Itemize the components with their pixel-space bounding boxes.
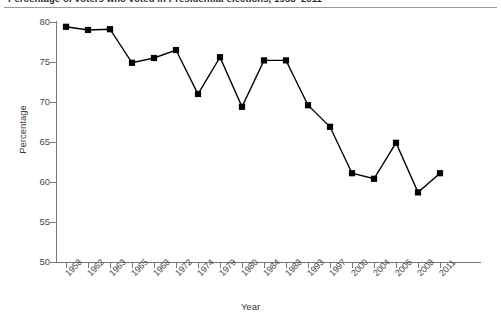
data-point-marker: 1988: 75.2	[283, 57, 289, 63]
data-point-marker: 2011: 61.1	[437, 170, 443, 176]
data-point-marker: 1974: 71	[195, 91, 201, 97]
chart-figure: 50556065707580 Percentage 19581962196319…	[0, 8, 501, 318]
data-point-marker: 1962: 79	[85, 27, 91, 33]
chart-title: Percentage of voters who voted in Presid…	[8, 0, 322, 4]
series-line	[66, 27, 440, 193]
series-plot: 1958: 79.41962: 791963: 79.11965: 74.919…	[0, 8, 501, 318]
data-point-marker: 1997: 66.9	[327, 124, 333, 130]
data-point-marker: 2000: 61.1	[349, 170, 355, 176]
data-point-marker: 2004: 60.4	[371, 176, 377, 182]
data-point-marker: 1993: 69.6	[305, 102, 311, 108]
data-point-marker: 1979: 75.6	[217, 54, 223, 60]
data-point-marker: 2006: 64.9	[393, 140, 399, 146]
data-point-marker: 1972: 76.5	[173, 47, 179, 53]
data-point-marker: 1965: 74.9	[129, 60, 135, 66]
data-point-marker: 1980: 69.4	[239, 104, 245, 110]
data-point-marker: 1968: 75.5	[151, 55, 157, 61]
data-point-marker: 1958: 79.4	[63, 24, 69, 30]
data-point-marker: 1963: 79.1	[107, 26, 113, 32]
data-point-marker: 2008: 58.7	[415, 189, 421, 195]
data-point-marker: 1984: 75.2	[261, 57, 267, 63]
